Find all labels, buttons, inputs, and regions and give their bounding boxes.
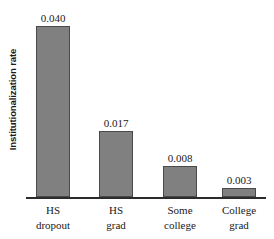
bar-group[interactable]: 0.008 bbox=[163, 166, 197, 197]
bar-value-label: 0.040 bbox=[36, 12, 70, 24]
plot-area: 0.040 0.017 0.008 0.003 HS dropout HS gr… bbox=[26, 0, 266, 199]
x-axis-category-label: Some college bbox=[149, 203, 211, 233]
category-line: grad bbox=[85, 218, 147, 233]
x-axis-category-label: HS grad bbox=[85, 203, 147, 233]
x-axis-line bbox=[26, 197, 266, 199]
bar-rect[interactable] bbox=[163, 166, 197, 197]
bar-value-label: 0.017 bbox=[99, 117, 133, 129]
bar-value-label: 0.008 bbox=[163, 152, 197, 164]
bar-group[interactable]: 0.003 bbox=[222, 188, 256, 197]
bar-group[interactable]: 0.040 bbox=[36, 26, 70, 197]
bar-group[interactable]: 0.017 bbox=[99, 131, 133, 197]
category-line: grad bbox=[208, 218, 270, 233]
bar-rect[interactable] bbox=[36, 26, 70, 197]
bar-rect[interactable] bbox=[222, 188, 256, 197]
category-line: HS bbox=[22, 203, 84, 218]
bar-chart: Institutionalization rate 0.040 0.017 0.… bbox=[0, 0, 274, 239]
category-line: college bbox=[149, 218, 211, 233]
category-line: College bbox=[208, 203, 270, 218]
category-line: Some bbox=[149, 203, 211, 218]
x-axis-category-label: College grad bbox=[208, 203, 270, 233]
y-axis-label: Institutionalization rate bbox=[0, 0, 26, 199]
category-line: HS bbox=[85, 203, 147, 218]
bar-value-label: 0.003 bbox=[222, 174, 256, 186]
bar-rect[interactable] bbox=[99, 131, 133, 197]
category-line: dropout bbox=[22, 218, 84, 233]
x-axis-category-label: HS dropout bbox=[22, 203, 84, 233]
y-axis-label-text: Institutionalization rate bbox=[8, 49, 19, 150]
